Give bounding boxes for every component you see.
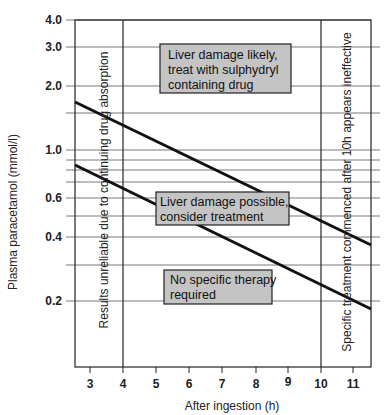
marker-10h-label: Specific treatment commenced after 10h a… xyxy=(340,32,354,352)
annotation-line: Liver damage likely, xyxy=(168,48,278,62)
annotation-liver-damage-likely: Liver damage likely, treat with sulphydr… xyxy=(160,44,291,93)
x-tick-label: 9 xyxy=(285,375,292,389)
y-tick-label: 4.0 xyxy=(45,13,62,27)
annotation-line: required xyxy=(170,288,216,302)
annotation-line: consider treatment xyxy=(160,210,264,224)
x-tick-label: 7 xyxy=(219,377,226,391)
x-tick-label: 8 xyxy=(253,377,260,391)
x-axis-title: After ingestion (h) xyxy=(185,399,280,413)
y-tick-label: 1.0 xyxy=(45,143,62,157)
marker-4h-label: Results unreliable due to continuing dru… xyxy=(97,52,111,329)
y-tick-label: 3.0 xyxy=(45,40,62,54)
x-tick-label: 10 xyxy=(314,377,328,391)
x-tick-label: 4 xyxy=(120,377,127,391)
annotation-line: Liver damage possible, xyxy=(160,195,289,209)
y-tick-label: 0.2 xyxy=(45,294,62,308)
x-tick-label: 3 xyxy=(87,377,94,391)
annotation-line: containing drug xyxy=(168,78,254,92)
y-tick-label: 0.4 xyxy=(45,230,62,244)
annotation-liver-damage-possible: Liver damage possible, consider treatmen… xyxy=(156,192,289,225)
x-tick-label: 5 xyxy=(153,377,160,391)
x-tick-label: 6 xyxy=(186,377,193,391)
y-tick-labels: 4.0 3.0 2.0 1.0 0.6 0.4 0.2 xyxy=(45,13,62,308)
annotation-no-specific-therapy: No specific therapy required xyxy=(164,270,277,304)
y-axis-title: Plasma paracetamol (mmol/l) xyxy=(6,134,20,290)
x-ticks xyxy=(90,367,353,373)
x-tick-label: 11 xyxy=(347,377,360,391)
annotation-line: No specific therapy xyxy=(170,273,277,287)
paracetamol-nomogram-chart: 3 4 5 6 7 8 9 10 11 4.0 3.0 2.0 1.0 0.6 … xyxy=(0,0,385,415)
y-tick-label: 0.6 xyxy=(45,191,62,205)
x-tick-labels: 3 4 5 6 7 8 9 10 11 xyxy=(87,375,360,391)
y-tick-label: 2.0 xyxy=(45,79,62,93)
annotation-line: treat with sulphydryl xyxy=(168,63,278,77)
